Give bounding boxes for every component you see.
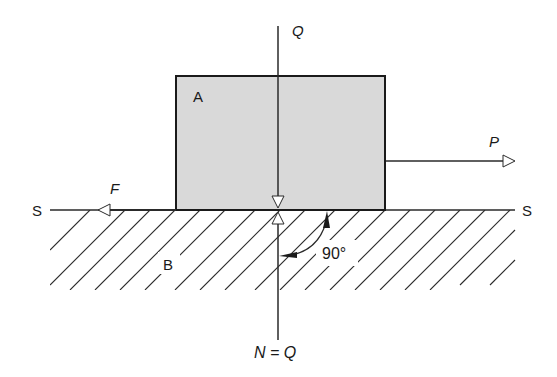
angle-label: 90° xyxy=(322,245,346,262)
block-label: A xyxy=(193,88,203,105)
block-a xyxy=(176,76,385,210)
normal-force-label: N = Q xyxy=(254,344,296,361)
angle-arrow-top-icon xyxy=(323,211,330,228)
pull-force-label: P xyxy=(489,133,499,150)
surface-left-label: S xyxy=(32,202,42,219)
friction-diagram: Q A P F S S B 90° N = Q xyxy=(0,0,557,377)
pull-force-arrowhead-icon xyxy=(503,155,515,167)
friction-force-arrowhead-icon xyxy=(98,204,110,216)
friction-force-label: F xyxy=(110,180,120,197)
load-force-label: Q xyxy=(292,22,304,39)
surface-right-label: S xyxy=(522,202,532,219)
surface-label: B xyxy=(163,256,173,273)
normal-force-arrowhead-icon xyxy=(272,212,284,224)
